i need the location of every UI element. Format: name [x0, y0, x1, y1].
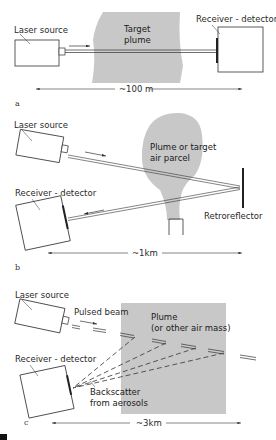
- laser-nozzle: [61, 145, 68, 153]
- receiver-detector-label: Receiver - detector: [15, 188, 97, 198]
- distance-label: ~1km: [132, 248, 158, 258]
- distance-label: ~3km: [136, 418, 162, 428]
- retroreflector-label: Retroreflector: [204, 211, 263, 221]
- laser-source-box: [15, 40, 59, 66]
- laser-nozzle: [59, 48, 65, 55]
- backscatter-label-line2: from aerosols: [90, 398, 148, 408]
- plume-label-line1: Target: [123, 24, 151, 34]
- panel-b: Laser source Plume or target air parcel …: [14, 113, 263, 272]
- panel-label: c: [24, 418, 29, 427]
- plume-air-parcel-shape: [142, 113, 203, 220]
- outgoing-direction-arrow: [85, 152, 106, 156]
- laser-source-box: [16, 129, 64, 162]
- lidar-configurations-diagram: Laser source Target plume Receiver - det…: [0, 0, 276, 440]
- laser-source-label: Laser source: [15, 290, 69, 300]
- pulsed-beam-label: Pulsed beam: [74, 307, 129, 317]
- corner-mark: [0, 434, 7, 440]
- plume-label-line1: Plume or target: [150, 142, 217, 152]
- plume-label-line2: (or other air mass): [151, 323, 231, 333]
- plume-label-line2: air parcel: [150, 153, 190, 163]
- backscatter-label-line1: Backscatter: [90, 387, 141, 397]
- receiver-detector-box: [20, 365, 74, 418]
- receiver-detector-label: Receiver - detector: [196, 14, 276, 24]
- stack-chimney: [169, 219, 183, 235]
- distance-label: ~100 m: [119, 84, 153, 94]
- plume-label-line2: plume: [124, 35, 151, 45]
- target-plume-shape: [92, 12, 183, 83]
- laser-source-label: Laser source: [14, 120, 68, 130]
- laser-nozzle: [62, 316, 69, 324]
- plume-label-line1: Plume: [151, 312, 177, 322]
- panel-label: a: [15, 99, 20, 108]
- laser-source-box: [15, 299, 65, 333]
- receiver-detector-box: [16, 196, 71, 251]
- laser-source-label: Laser source: [14, 25, 68, 35]
- panel-a: Laser source Target plume Receiver - det…: [14, 12, 276, 108]
- receiver-detector-label: Receiver - detector: [15, 354, 97, 364]
- receiver-detector-box: [218, 27, 263, 72]
- panel-c: Laser source Pulsed beam Plume (or other…: [0, 290, 256, 440]
- pulse-direction-arrow: [80, 321, 97, 324]
- panel-label: b: [15, 263, 20, 272]
